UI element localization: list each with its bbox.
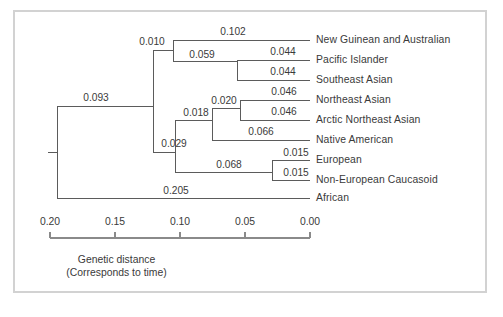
branch-value-eurasian-node: 0.093 [75, 93, 117, 103]
axis-caption-line-2: (Corresponds to time) [0, 266, 368, 279]
axis-tick-label-0: 0.20 [40, 217, 60, 227]
branch-value-european: 0.015 [275, 148, 317, 158]
axis-tick-label-1: 0.15 [105, 217, 125, 227]
branch-value-pacific-southeast-node: 0.059 [181, 50, 223, 60]
branch-value-oceanic-node: 0.010 [131, 37, 173, 47]
leaf-label-european: European [316, 155, 362, 165]
branch-value-northeast-asian-node: 0.020 [203, 96, 245, 106]
branch-value-southeast-asian: 0.044 [262, 67, 304, 77]
leaf-label-native-american: Native American [316, 135, 393, 145]
leaf-label-african: African [316, 193, 349, 203]
axis-caption-line-1: Genetic distance [0, 253, 368, 266]
axis-tick-label-2: 0.10 [170, 217, 190, 227]
branch-value-asian-amerind-caucasoid-node: 0.029 [153, 139, 195, 149]
leaf-label-northeast-asian: Northeast Asian [316, 95, 391, 105]
branch-value-arctic-northeast-asian: 0.046 [263, 107, 305, 117]
branch-value-asian-amerind-node: 0.018 [175, 108, 217, 118]
branch-value-northeast-asian: 0.046 [263, 87, 305, 97]
leaf-label-arctic-northeast-asian: Arctic Northeast Asian [316, 115, 420, 125]
branch-value-native-american: 0.066 [240, 127, 282, 137]
leaf-label-new-guinean-and-australian: New Guinean and Australian [316, 35, 450, 45]
branch-value-african: 0.205 [155, 186, 197, 196]
axis-caption: Genetic distance (Corresponds to time) [0, 253, 368, 279]
leaf-label-pacific-islander: Pacific Islander [316, 55, 388, 65]
branch-value-caucasoid-node: 0.068 [208, 160, 250, 170]
branch-value-non-european-caucasoid: 0.015 [275, 168, 317, 178]
axis-tick-label-4: 0.00 [300, 217, 320, 227]
leaf-label-non-european-caucasoid: Non-European Caucasoid [316, 175, 438, 185]
axis-tick-label-3: 0.05 [235, 217, 255, 227]
branch-value-pacific-islander: 0.044 [262, 47, 304, 57]
phylogenetic-tree-figure: New Guinean and Australian Pacific Islan… [0, 0, 503, 317]
branch-value-new-guinean-and-australian: 0.102 [212, 27, 254, 37]
leaf-label-southeast-asian: Southeast Asian [316, 75, 393, 85]
